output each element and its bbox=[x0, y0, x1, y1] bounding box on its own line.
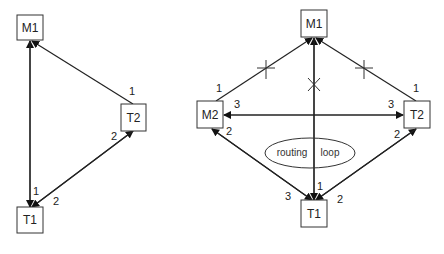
port-label: 1 bbox=[216, 82, 222, 94]
routing-loop-annotation: routing loop bbox=[265, 138, 355, 168]
port-label: 1 bbox=[129, 85, 135, 97]
edge-t1-m2 bbox=[212, 129, 312, 200]
routing-loop-text: loop bbox=[321, 147, 340, 158]
right-diagram: routing loop M1 M2 T2 T1 1 3 2 1 3 2 1 3… bbox=[197, 10, 430, 227]
node-label: T2 bbox=[126, 111, 140, 125]
port-label: 2 bbox=[394, 128, 400, 140]
port-label: 1 bbox=[317, 180, 323, 192]
node-m1: M1 bbox=[301, 10, 327, 37]
node-label: M1 bbox=[22, 21, 39, 35]
blocked-mark-m2-m1 bbox=[257, 60, 275, 79]
blocked-mark-t2-m1 bbox=[355, 60, 373, 79]
node-m2: M2 bbox=[197, 101, 223, 128]
node-m1: M1 bbox=[17, 15, 43, 40]
node-t1: T1 bbox=[17, 207, 43, 233]
node-t2: T2 bbox=[121, 104, 146, 131]
routing-loop-text: routing bbox=[277, 147, 308, 158]
port-label: 2 bbox=[226, 125, 232, 137]
port-label: 1 bbox=[413, 82, 419, 94]
node-t1: T1 bbox=[301, 200, 327, 227]
edge-m2-m1 bbox=[216, 38, 312, 101]
node-label: M2 bbox=[202, 108, 219, 122]
node-label: T2 bbox=[410, 108, 424, 122]
node-label: M1 bbox=[306, 17, 323, 31]
node-t2: T2 bbox=[404, 101, 430, 128]
port-label: 2 bbox=[337, 193, 343, 205]
diagram-canvas: M1 T2 T1 1 2 1 2 bbox=[0, 0, 444, 254]
port-label: 3 bbox=[285, 190, 291, 202]
node-label: T1 bbox=[23, 213, 37, 227]
left-diagram: M1 T2 T1 1 2 1 2 bbox=[17, 15, 146, 233]
port-label: 2 bbox=[53, 195, 59, 207]
port-label: 2 bbox=[111, 130, 117, 142]
port-label: 3 bbox=[388, 98, 394, 110]
port-label: 3 bbox=[234, 98, 240, 110]
edge-t2-m1 bbox=[32, 41, 133, 104]
port-label: 1 bbox=[33, 185, 39, 197]
edge-t2-m1 bbox=[316, 38, 416, 101]
edge-t2-t1 bbox=[32, 131, 133, 207]
node-label: T1 bbox=[307, 207, 321, 221]
